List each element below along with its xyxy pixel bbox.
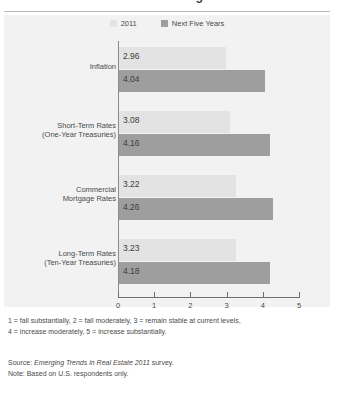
bar-current-year: 3.23 <box>119 239 236 261</box>
category-label-line-1: Long-Term Rates <box>58 249 116 258</box>
legend-item: Next Five Years <box>161 19 225 28</box>
legend-item: 2011 <box>110 19 137 28</box>
legend-item-label: 2011 <box>121 19 137 28</box>
bar-value-label: 2.96 <box>123 51 140 61</box>
x-axis-tick <box>227 292 228 298</box>
scale-legend-note: 1 = fall substantially, 2 = fall moderat… <box>8 316 328 337</box>
legend-swatch-icon <box>161 20 168 27</box>
bar-value-label: 4.16 <box>123 138 140 148</box>
category-label: Short-Term Rates(One-Year Treasuries) <box>16 121 116 139</box>
category-label-line-2: (Ten-Year Treasuries) <box>16 258 116 267</box>
bar-current-year: 3.08 <box>119 111 230 133</box>
category-label: CommercialMortgage Rates <box>16 185 116 203</box>
x-axis-tick-label: 2 <box>188 301 192 310</box>
x-axis-tick-label: 5 <box>297 301 301 310</box>
bar-value-label: 3.08 <box>123 115 140 125</box>
category-label-line-2: Mortgage Rates <box>16 194 116 203</box>
x-axis-line <box>118 297 299 298</box>
x-axis-tick <box>190 292 191 298</box>
x-axis-tick-label: 4 <box>261 301 265 310</box>
x-axis-tick-label: 3 <box>225 301 229 310</box>
legend-item-label: Next Five Years <box>172 19 225 28</box>
bar-value-label: 4.04 <box>123 74 140 84</box>
source-line: Source: Emerging Trends in Real Estate 2… <box>8 358 328 369</box>
bar-current-year: 2.96 <box>119 47 226 69</box>
category-label-line-2: (One-Year Treasuries) <box>16 130 116 139</box>
chart-group: Short-Term Rates(One-Year Treasuries)3.0… <box>4 109 330 161</box>
x-axis-tick-label: 0 <box>116 301 120 310</box>
x-axis-tick-label: 1 <box>152 301 156 310</box>
category-label-line-1: Commercial <box>76 185 116 194</box>
chart-title-container: Inflation and Interest Rate Changes <box>0 0 340 11</box>
source-prefix: Source: <box>8 359 34 366</box>
bar-value-label: 3.22 <box>123 179 140 189</box>
category-label-line-1: Short-Term Rates <box>57 121 116 130</box>
chart-group: Inflation2.964.04 <box>4 45 330 97</box>
bar-value-label: 4.18 <box>123 266 140 276</box>
scale-note-line-2: 4 = increase moderately, 5 = increase su… <box>8 327 328 338</box>
x-axis-tick <box>154 292 155 298</box>
bar-next-five-years: 4.04 <box>119 70 265 92</box>
legend-swatch-icon <box>110 20 117 27</box>
x-axis-tick <box>118 292 119 298</box>
category-label: Inflation <box>16 62 116 71</box>
chart-legend: 2011Next Five Years <box>4 19 330 28</box>
bar-next-five-years: 4.18 <box>119 262 270 284</box>
source-suffix: survey. <box>150 359 174 366</box>
x-axis-tick <box>263 292 264 298</box>
source-block: Source: Emerging Trends in Real Estate 2… <box>8 358 328 379</box>
plot-area: Inflation2.964.04Short-Term Rates(One-Ye… <box>4 35 330 307</box>
bar-current-year: 3.22 <box>119 175 236 197</box>
title-divider <box>4 11 330 12</box>
bar-next-five-years: 4.16 <box>119 134 270 156</box>
respondents-note: Note: Based on U.S. respondents only. <box>8 369 328 380</box>
category-label-line-1: Inflation <box>90 62 116 71</box>
bar-next-five-years: 4.26 <box>119 198 273 220</box>
chart-panel: 2011Next Five Years Inflation2.964.04Sho… <box>4 15 330 307</box>
bar-value-label: 3.23 <box>123 243 140 253</box>
chart-group: CommercialMortgage Rates3.224.26 <box>4 173 330 225</box>
x-axis-tick <box>299 292 300 298</box>
source-publication: Emerging Trends in Real Estate 2011 <box>34 359 150 366</box>
chart-group: Long-Term Rates(Ten-Year Treasuries)3.23… <box>4 237 330 289</box>
scale-note-line-1: 1 = fall substantially, 2 = fall moderat… <box>8 316 328 327</box>
category-label: Long-Term Rates(Ten-Year Treasuries) <box>16 249 116 267</box>
page-title: Inflation and Interest Rate Changes <box>0 0 340 3</box>
bar-value-label: 4.26 <box>123 202 140 212</box>
